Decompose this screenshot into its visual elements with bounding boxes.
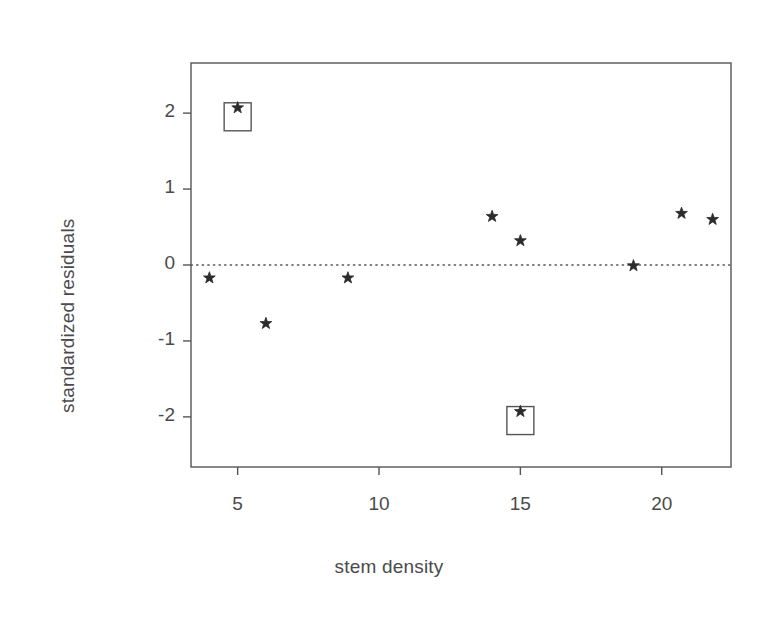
x-axis-label: stem density xyxy=(0,556,778,578)
data-point-marker-2 xyxy=(260,317,272,328)
y-tick-label-4: -2 xyxy=(127,404,175,426)
plot-canvas xyxy=(0,0,778,623)
x-tick-label-1: 10 xyxy=(355,493,403,515)
data-point-marker-5 xyxy=(514,235,526,246)
data-point-marker-4 xyxy=(486,210,498,221)
x-tick-label-3: 20 xyxy=(638,493,686,515)
scatter-plot-screenshot: standardized residuals stem density 210-… xyxy=(0,0,778,623)
residuals-scatter-figure: standardized residuals stem density 210-… xyxy=(0,0,778,623)
x-tick-label-2: 15 xyxy=(496,493,544,515)
data-point-marker-7 xyxy=(628,260,640,271)
highlight-boxes xyxy=(224,103,534,435)
data-point-marker-8 xyxy=(676,207,688,218)
y-axis-label: standardized residuals xyxy=(57,218,79,413)
data-point-marker-9 xyxy=(707,213,719,224)
y-tick-label-3: -1 xyxy=(127,328,175,350)
x-tick-label-0: 5 xyxy=(214,493,262,515)
y-tick-label-1: 1 xyxy=(127,176,175,198)
axis-ticks xyxy=(183,113,662,475)
data-points xyxy=(203,102,718,417)
y-tick-label-0: 2 xyxy=(127,100,175,122)
data-point-marker-3 xyxy=(342,272,354,283)
data-point-marker-0 xyxy=(203,272,215,283)
y-tick-label-2: 0 xyxy=(127,252,175,274)
